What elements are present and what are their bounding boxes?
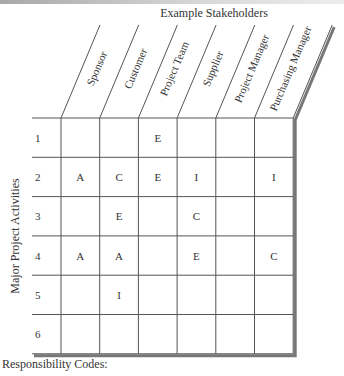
- stakeholder-headers: SponsorCustomerProject TeamSupplierProje…: [84, 24, 313, 113]
- activity-number: 1: [35, 132, 41, 144]
- responsibility-code: E: [154, 171, 161, 183]
- activity-number: 5: [35, 289, 41, 301]
- stakeholder-header: Project Manager: [232, 32, 272, 104]
- chart-title: Example Stakeholders: [160, 6, 268, 20]
- responsibility-code: C: [270, 250, 277, 262]
- responsibility-code: A: [76, 171, 84, 183]
- responsibility-code: C: [115, 171, 122, 183]
- activity-number: 4: [35, 250, 41, 262]
- responsibility-codes-label: Responsibility Codes:: [2, 357, 108, 372]
- responsibility-code: E: [116, 210, 123, 222]
- activity-number: 3: [35, 210, 41, 222]
- stakeholder-header: Project Team: [157, 39, 191, 97]
- responsibility-code: I: [195, 171, 199, 183]
- responsibility-code: E: [193, 250, 200, 262]
- stakeholder-header: Customer: [121, 46, 149, 90]
- activity-number: 2: [35, 171, 41, 183]
- responsibility-code: A: [76, 250, 84, 262]
- responsibility-matrix: Example Stakeholders SponsorCustomerProj…: [0, 0, 344, 376]
- responsibility-code: I: [117, 289, 121, 301]
- activity-number: 6: [35, 328, 41, 340]
- stakeholder-header: Purchasing Manager: [267, 24, 314, 113]
- responsibility-code: I: [272, 171, 276, 183]
- responsibility-code: E: [154, 132, 161, 144]
- responsibility-code: A: [115, 250, 123, 262]
- responsibility-code: C: [193, 210, 200, 222]
- row-axis-label: Major Project Activities: [8, 178, 22, 294]
